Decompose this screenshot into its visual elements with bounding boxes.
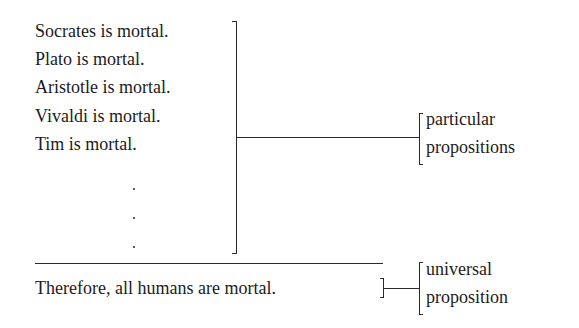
premises-bracket-top-tick <box>232 21 236 22</box>
conclusion-text: Therefore, all humans are mortal. <box>35 277 276 299</box>
universal-bracket-bottom-tick <box>419 314 423 315</box>
conclusion-connector-line <box>383 288 419 289</box>
particular-bracket-top-tick <box>419 113 423 114</box>
premise-tim: Tim is mortal. <box>35 133 137 155</box>
ellipsis-dot-1 <box>133 188 135 190</box>
label-proposition: proposition <box>426 286 508 308</box>
premise-plato: Plato is mortal. <box>35 48 145 70</box>
inference-rule-line <box>35 263 383 264</box>
ellipsis-dot-3 <box>133 246 135 248</box>
conclusion-bracket-top-tick <box>380 278 383 279</box>
premise-socrates: Socrates is mortal. <box>35 20 168 42</box>
label-particular: particular <box>426 108 495 130</box>
universal-bracket-vertical <box>419 262 420 315</box>
ellipsis-dot-2 <box>133 217 135 219</box>
particular-bracket-bottom-tick <box>419 164 423 165</box>
label-universal: universal <box>426 258 492 280</box>
premise-vivaldi: Vivaldi is mortal. <box>35 105 160 127</box>
premises-connector-line <box>236 137 419 138</box>
premise-aristotle: Aristotle is mortal. <box>35 76 170 98</box>
particular-bracket-vertical <box>419 113 420 165</box>
conclusion-bracket-bottom-tick <box>380 297 383 298</box>
universal-bracket-top-tick <box>419 262 423 263</box>
label-propositions: propositions <box>426 136 515 158</box>
premises-bracket-bottom-tick <box>232 253 236 254</box>
